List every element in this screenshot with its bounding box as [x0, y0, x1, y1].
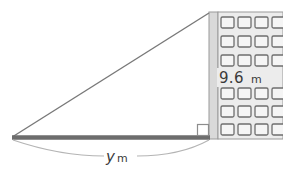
- window: [221, 106, 234, 117]
- height-label: 9.6 m: [217, 68, 267, 87]
- window: [221, 36, 234, 47]
- window: [255, 36, 268, 47]
- brace-arc-right: [137, 140, 209, 156]
- right-angle-marker: [198, 125, 209, 136]
- window: [238, 36, 251, 47]
- window: [272, 88, 283, 99]
- height-label-value: 9.6: [219, 69, 244, 87]
- height-label-unit: m: [251, 73, 262, 86]
- diagram-canvas: 9.6 m y m: [0, 0, 283, 174]
- triangle-group: [12, 13, 210, 138]
- window: [238, 106, 251, 117]
- base-label: y m: [105, 148, 128, 166]
- window: [255, 124, 268, 135]
- window: [255, 17, 268, 28]
- window: [238, 124, 251, 135]
- window: [221, 88, 234, 99]
- base-label-value: y: [105, 148, 116, 166]
- window: [221, 124, 234, 135]
- hypotenuse-line: [13, 13, 209, 137]
- window: [238, 88, 251, 99]
- brace-arc-left: [13, 140, 104, 156]
- window: [255, 88, 268, 99]
- geometry-diagram: 9.6 m y m: [0, 0, 283, 174]
- window: [272, 36, 283, 47]
- building-edge-strip: [209, 12, 218, 139]
- window: [221, 17, 234, 28]
- base-label-unit: m: [117, 152, 128, 165]
- window: [272, 106, 283, 117]
- window: [238, 17, 251, 28]
- window: [221, 55, 234, 66]
- window: [238, 55, 251, 66]
- window: [272, 124, 283, 135]
- window: [255, 55, 268, 66]
- window: [255, 106, 268, 117]
- window: [272, 55, 283, 66]
- window: [272, 17, 283, 28]
